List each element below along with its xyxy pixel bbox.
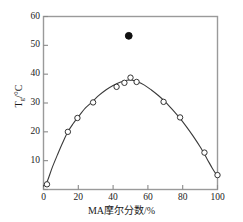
y-tick-label: 10 [16,156,40,166]
data-point-marker [114,84,119,89]
y-axis-label-subscript: g [18,98,26,102]
data-point-filled-circle [125,32,132,39]
x-tick-label: 40 [99,193,127,203]
data-point-marker [44,182,49,187]
y-tick-label: 50 [16,40,40,50]
x-tick-label: 80 [169,193,197,203]
y-axis-label-unit: /°C [13,84,24,97]
y-axis-label-base: T [13,101,24,107]
chart-figure: 102030405060020406080100 MA摩尔分数/% Tg/°C [0,0,243,222]
data-point-marker [202,150,207,155]
x-tick-label: 60 [134,193,162,203]
x-tick-label: 100 [204,193,232,203]
data-point-marker-filled [125,32,132,39]
chart-canvas [0,0,243,222]
data-point-marker [161,99,166,104]
data-point-marker [122,80,127,85]
data-point-marker [128,75,133,80]
data-point-marker [65,129,70,134]
data-point-marker [90,100,95,105]
x-axis-label: MA摩尔分数/% [0,206,243,216]
y-tick-label: 20 [16,127,40,137]
data-point-marker [215,172,220,177]
x-tick-label: 0 [30,193,58,203]
data-point-marker [134,79,139,84]
axes-frame [44,17,218,190]
y-axis-label: Tg/°C [14,66,26,126]
data-point-marker [75,115,80,120]
y-tick-label: 60 [16,12,40,22]
x-tick-label: 20 [64,193,92,203]
data-point-marker [177,115,182,120]
